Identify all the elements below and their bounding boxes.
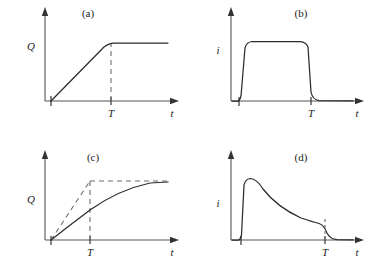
panel-c-y-label: Q — [27, 193, 35, 205]
panel-c-curve — [51, 182, 168, 240]
panel-b-x-axis-arrow — [355, 98, 364, 104]
panel-a-y-label: Q — [27, 40, 35, 52]
panel-a-curve — [51, 43, 168, 101]
panel-b-caption: (b) — [295, 7, 308, 20]
panel-b-y-axis-arrow — [228, 7, 234, 16]
panel-c: (c) Q t T — [0, 139, 191, 277]
panel-c-y-axis-arrow — [42, 150, 48, 159]
panel-d-x-label: t — [355, 246, 359, 258]
panel-c-caption: (c) — [87, 151, 100, 164]
panel-d-curve — [232, 179, 353, 241]
panel-a-x-axis-arrow — [170, 98, 179, 104]
panel-a-x-label: t — [170, 107, 174, 119]
panel-d-tick-label-T: T — [322, 246, 329, 258]
panel-a-y-axis-arrow — [42, 7, 48, 16]
panel-d-caption: (d) — [295, 151, 308, 164]
panel-d-y-axis-arrow — [228, 150, 234, 159]
panel-c-x-axis-arrow — [170, 237, 179, 243]
panel-c-tick-label-T: T — [87, 246, 94, 258]
panel-d-x-axis-arrow — [355, 237, 364, 243]
panel-b-y-label: i — [216, 44, 219, 56]
panel-d: (d) i t T — [191, 139, 382, 277]
panel-c-tangent — [51, 181, 90, 240]
panel-b-x-label: t — [355, 107, 359, 119]
figure-container: (a) Q t T (b) i t T — [0, 0, 382, 277]
panel-b: (b) i t T — [191, 0, 382, 138]
panel-b-tick-label-T: T — [308, 107, 315, 119]
panel-a: (a) Q t T — [0, 0, 191, 138]
panel-c-x-label: t — [170, 246, 174, 258]
panel-a-caption: (a) — [82, 7, 95, 20]
panel-a-tick-label-T: T — [108, 107, 115, 119]
panel-d-y-label: i — [216, 197, 219, 209]
panel-b-curve — [232, 42, 353, 102]
